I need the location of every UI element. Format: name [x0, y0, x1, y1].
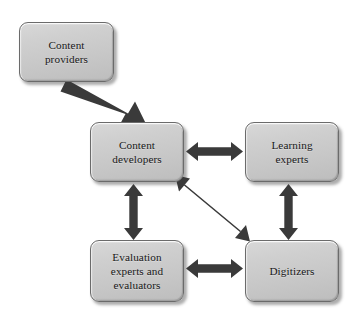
node-content-developers[interactable]: Content developers: [90, 122, 184, 182]
arrow-providers-to-developers: [61, 80, 149, 129]
node-evaluation-experts-label: Evaluation experts and evaluators: [107, 250, 167, 292]
node-content-providers-label: Content providers: [41, 38, 92, 66]
node-digitizers-label: Digitizers: [265, 264, 318, 278]
node-content-providers[interactable]: Content providers: [19, 22, 114, 82]
node-learning-experts[interactable]: Learning experts: [245, 122, 339, 182]
node-learning-experts-label: Learning experts: [267, 138, 316, 166]
node-evaluation-experts[interactable]: Evaluation experts and evaluators: [90, 240, 184, 302]
arrow-developers-learning: [186, 142, 243, 161]
node-digitizers[interactable]: Digitizers: [245, 240, 339, 302]
arrow-learning-digitizers: [279, 184, 298, 240]
arrow-evaluation-digitizers: [186, 259, 243, 278]
arrow-developers-evaluation: [124, 184, 143, 240]
arrow-developers-digitizers: [175, 175, 250, 242]
diagram-canvas: Content providers Content developers Lea…: [0, 0, 356, 312]
node-content-developers-label: Content developers: [108, 138, 165, 166]
